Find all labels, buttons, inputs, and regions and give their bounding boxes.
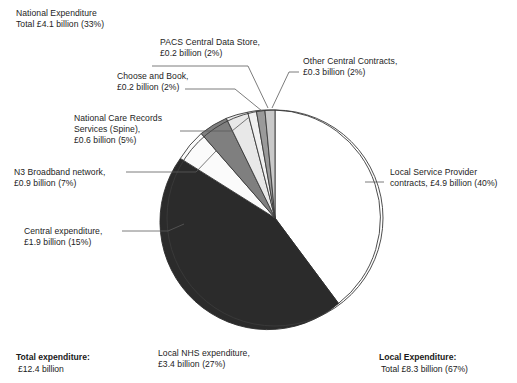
leader-line-other-central-contracts — [272, 72, 299, 108]
annotation-national-expenditure: National Expenditure Total £4.1 billion … — [16, 8, 104, 30]
total-expenditure-note: Total expenditure: £12.4 billion — [16, 352, 90, 375]
label-pacs-central-data-store: PACS Central Data Store, £0.2 billion (2… — [160, 37, 260, 59]
local-expenditure-value: Total £8.3 billion (67%) — [379, 364, 468, 376]
local-expenditure-note: Local Expenditure: Total £8.3 billion (6… — [379, 352, 468, 375]
total-expenditure-heading: Total expenditure: — [16, 352, 90, 364]
total-expenditure-value: £12.4 billion — [16, 364, 90, 376]
pie-chart-figure: National Expenditure Total £4.1 billion … — [0, 0, 517, 383]
label-local-nhs-expenditure: Local NHS expenditure, £3.4 billion (27%… — [158, 348, 250, 370]
leader-line-choose-and-book — [185, 89, 262, 111]
label-other-central-contracts: Other Central Contracts, £0.3 billion (2… — [303, 56, 397, 78]
label-n3-broadband-network: N3 Broadband network, £0.9 billion (7%) — [14, 167, 105, 189]
local-expenditure-heading: Local Expenditure: — [379, 352, 468, 364]
label-choose-and-book: Choose and Book, £0.2 billion (2%) — [117, 71, 189, 93]
label-local-service-provider: Local Service Provider contracts, £4.9 b… — [390, 167, 498, 189]
label-central-expenditure: Central expenditure, £1.9 billion (15%) — [24, 226, 102, 248]
label-national-care-records-spine: National Care Records Services (Spine), … — [74, 113, 162, 147]
